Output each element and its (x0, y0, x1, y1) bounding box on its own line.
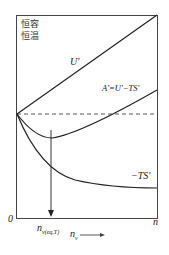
x-axis-arrow-icon (100, 233, 105, 237)
x-end-label: n (153, 216, 158, 227)
equilibrium-arrowhead-icon (48, 210, 54, 217)
x-axis-label: nv (70, 228, 78, 241)
x-axis-subscript: v (75, 235, 78, 241)
condition-constant-temperature: 恒温 (21, 31, 39, 42)
a-curve-label: A'=U'−TS' (102, 83, 139, 93)
condition-constant-volume: 恒容 (21, 19, 39, 30)
origin-label: 0 (8, 213, 13, 224)
u-curve-label: U' (70, 56, 79, 67)
equilibrium-label: nv(eq,T) (37, 222, 59, 235)
ts-curve-label: −TS' (131, 170, 150, 181)
equilibrium-subscript: v(eq,T) (42, 229, 59, 235)
